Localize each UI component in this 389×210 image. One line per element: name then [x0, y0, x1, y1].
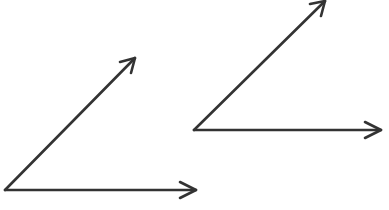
ray-left-diagonal: [5, 58, 135, 190]
angles-diagram: [0, 0, 389, 210]
angle-left: [5, 58, 196, 198]
angle-right: [194, 1, 381, 138]
ray-right-diagonal: [194, 1, 325, 130]
